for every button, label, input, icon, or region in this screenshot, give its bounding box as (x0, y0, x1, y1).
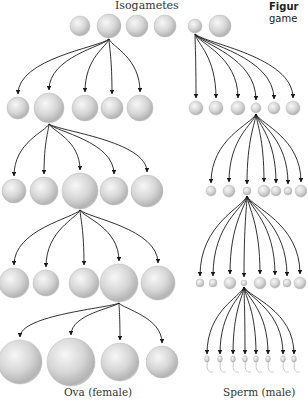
arrow (119, 303, 162, 343)
arrow (247, 114, 256, 184)
arrow (247, 196, 300, 274)
ovum-cell (100, 264, 138, 302)
sperm-cell (281, 356, 289, 372)
arrow (247, 196, 275, 275)
ovum-cell (0, 268, 29, 298)
ovum-cell (127, 95, 153, 121)
figure-caption: Figur game (269, 1, 298, 25)
male-gamete-cell (241, 280, 247, 286)
isogamete-cell (97, 14, 121, 38)
arrow (18, 39, 109, 94)
ovum-cell (62, 173, 98, 209)
male-gamete-cell (196, 279, 204, 287)
figure-caption-bold: Figur (269, 1, 298, 12)
isogamete-cell (70, 16, 90, 36)
arrow (44, 124, 49, 174)
male-gamete-cell (209, 101, 223, 115)
arrow (109, 39, 140, 92)
male-gamete-cell (189, 101, 203, 115)
ovum-cell (131, 175, 163, 207)
male-gamete-cell (286, 101, 300, 115)
ova-female-label: Ova (female) (64, 386, 132, 398)
male-gamete-cell (231, 101, 245, 115)
arrow (244, 287, 294, 354)
male-gamete-cell (223, 185, 235, 197)
isogamete-cell (188, 19, 202, 33)
ovum-cell (33, 270, 59, 296)
arrow (256, 114, 264, 182)
arrow (20, 303, 119, 337)
ovum-cell (146, 346, 178, 378)
male-gamete-cell (270, 278, 280, 288)
ovum-cell (47, 338, 95, 386)
sperm-cell (254, 356, 262, 372)
arrow (49, 124, 80, 170)
arrow (195, 34, 274, 99)
arrow (229, 114, 256, 182)
arrow (195, 34, 256, 100)
arrow (200, 196, 247, 276)
ovum-cell (101, 343, 139, 381)
male-gamete-cell (254, 277, 266, 289)
male-gamete-cell (209, 279, 217, 287)
sperm-cell (218, 356, 226, 372)
isogamete-cell (154, 15, 176, 37)
isogametes-label: Isogametes (115, 0, 179, 12)
arrow (247, 196, 287, 276)
figure-caption-line2: game (269, 13, 297, 24)
arrow (244, 196, 247, 277)
ovum-cell (101, 97, 123, 119)
sperm-male-label: Sperm (male) (223, 386, 295, 398)
isogamete-cell (126, 15, 148, 37)
ovum-cell (2, 179, 26, 203)
arrow (195, 34, 238, 98)
arrow (49, 124, 114, 174)
sperm-cell (243, 356, 251, 372)
sperm-cell (205, 356, 213, 372)
ovum-cell (7, 97, 29, 119)
sperm-cell (266, 356, 274, 372)
ovum-cell (69, 268, 99, 298)
gamete-cells (0, 14, 307, 386)
arrow (109, 39, 112, 94)
male-gamete-cell (283, 279, 291, 287)
arrow (244, 287, 245, 354)
male-gamete-cell (206, 186, 216, 196)
arrow (256, 114, 276, 183)
ovum-cell (141, 266, 175, 300)
arrow (80, 210, 119, 261)
ovum-cell (0, 340, 42, 384)
ovum-cell (30, 177, 58, 205)
male-gamete-cell (224, 277, 236, 289)
male-gamete-cell (294, 277, 306, 289)
ovum-cell (72, 95, 98, 121)
arrow (195, 34, 196, 98)
sperm-cell (292, 356, 300, 372)
male-gamete-cell (251, 103, 261, 113)
ovum-cell (34, 93, 64, 123)
arrow (80, 210, 84, 265)
arrow (220, 287, 244, 354)
male-gamete-cell (268, 102, 280, 114)
ovum-cell (100, 177, 128, 205)
arrow (119, 303, 120, 340)
male-gamete-cell (243, 187, 251, 195)
male-gamete-cell (271, 186, 281, 196)
sperm-cell (231, 356, 239, 372)
male-gamete-cell (295, 185, 307, 197)
isogamete-cell (209, 15, 231, 37)
male-gamete-cell (258, 185, 270, 197)
gametogenesis-diagram (0, 0, 308, 401)
arrow (256, 114, 301, 182)
arrow (49, 39, 109, 90)
male-gamete-cell (284, 187, 292, 195)
